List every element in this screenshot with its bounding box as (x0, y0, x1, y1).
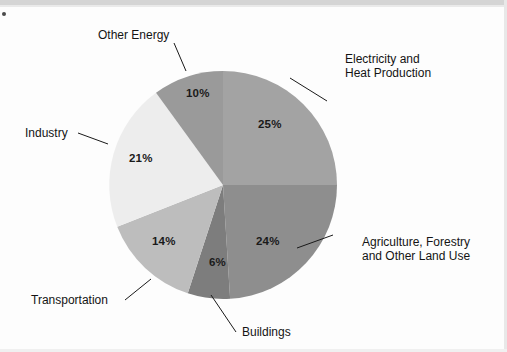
slice-value-transportation: 14% (152, 235, 176, 247)
pie-slice-agriculture[interactable] (223, 185, 337, 299)
leader-line-industry (78, 133, 108, 144)
category-label-electricity-line1: Electricity and (345, 52, 420, 66)
pie-chart: 25% 24% 6% 14% 21% 10% Electricity and H… (0, 0, 507, 352)
category-label-electricity-line2: Heat Production (345, 66, 431, 80)
category-label-transportation[interactable]: Transportation (31, 293, 108, 307)
slice-value-other-energy: 10% (186, 87, 210, 99)
category-label-agriculture-line2: and Other Land Use (362, 249, 470, 263)
category-label-buildings[interactable]: Buildings (242, 325, 291, 339)
page-root: 25% 24% 6% 14% 21% 10% Electricity and H… (0, 0, 507, 352)
leader-line-other-energy (174, 43, 186, 71)
slice-value-buildings: 6% (209, 256, 226, 268)
category-label-electricity[interactable]: Electricity and Heat Production (345, 52, 431, 80)
leader-line-buildings (211, 295, 236, 332)
category-label-agriculture-line1: Agriculture, Forestry (362, 235, 470, 249)
category-label-agriculture[interactable]: Agriculture, Forestry and Other Land Use (362, 235, 470, 263)
slice-value-industry: 21% (129, 152, 153, 164)
slice-value-agriculture: 24% (256, 235, 280, 247)
slice-value-electricity: 25% (258, 118, 282, 130)
leader-line-transportation (125, 279, 151, 300)
category-label-other-energy[interactable]: Other Energy (98, 28, 169, 42)
category-label-industry[interactable]: Industry (25, 126, 68, 140)
